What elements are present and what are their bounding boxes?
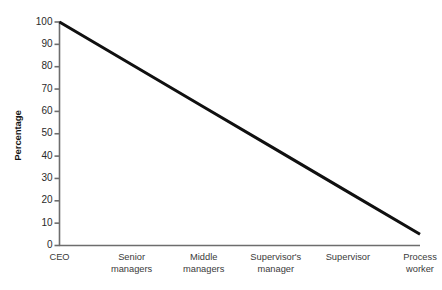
y-axis-tick-label: 60 xyxy=(27,106,53,116)
x-axis-tick-label: CEO xyxy=(22,252,98,264)
x-axis-tick-label: Process worker xyxy=(382,252,442,275)
y-axis-tick-label: 30 xyxy=(27,173,53,183)
y-axis-title: Percentage xyxy=(8,96,26,176)
y-axis-tick-label: 90 xyxy=(27,39,53,49)
y-axis-tick-label: 40 xyxy=(27,151,53,161)
y-axis-tick-label: 100 xyxy=(27,17,53,27)
series-line-percentage xyxy=(60,22,421,234)
x-axis-tick-label: Supervisor xyxy=(310,252,386,264)
y-axis-tick-label: 80 xyxy=(27,61,53,71)
x-axis-tick-label: Middle managers xyxy=(166,252,242,275)
y-axis-tick-label: 10 xyxy=(27,218,53,228)
y-axis-tick-label: 20 xyxy=(27,195,53,205)
y-axis-tick-label: 70 xyxy=(27,84,53,94)
x-axis-tick-label: Supervisor's manager xyxy=(238,252,314,275)
series-group xyxy=(60,22,421,234)
axes-group xyxy=(55,21,421,246)
x-axis-tick-label: Senior managers xyxy=(94,252,170,275)
y-axis-tick-label: 50 xyxy=(27,128,53,138)
y-axis-title-label: Percentage xyxy=(12,110,23,162)
y-axis-tick-label: 0 xyxy=(27,240,53,250)
